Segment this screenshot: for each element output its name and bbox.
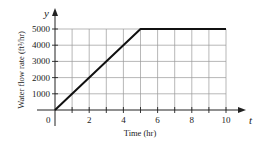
- x-tick-label: 4: [121, 115, 126, 125]
- water-flow-chart: Water flow rate (ft³/hr) Time (hr) y t 0…: [0, 0, 258, 144]
- labels: Water flow rate (ft³/hr) Time (hr) y t 0…: [16, 7, 253, 138]
- x-tick-label: 10: [222, 115, 232, 125]
- y-tick-label: 2000: [32, 73, 51, 83]
- origin-label: 0: [46, 115, 51, 125]
- ticks: [52, 29, 226, 113]
- x-axis-arrow: [238, 107, 246, 113]
- axes: [37, 8, 246, 126]
- y-axis-variable: y: [43, 7, 49, 19]
- y-tick-label: 5000: [32, 24, 51, 34]
- grid-lines: [55, 29, 226, 110]
- y-axis-title: Water flow rate (ft³/hr): [16, 31, 26, 109]
- x-tick-label: 2: [87, 115, 92, 125]
- y-tick-label: 1000: [32, 89, 51, 99]
- y-axis-arrow: [52, 8, 58, 16]
- x-axis-title: Time (hr): [124, 128, 157, 138]
- x-axis-variable: t: [249, 114, 253, 126]
- x-tick-label: 6: [155, 115, 160, 125]
- x-tick-label: 8: [190, 115, 195, 125]
- y-tick-label: 3000: [32, 56, 51, 66]
- y-tick-label: 4000: [32, 40, 51, 50]
